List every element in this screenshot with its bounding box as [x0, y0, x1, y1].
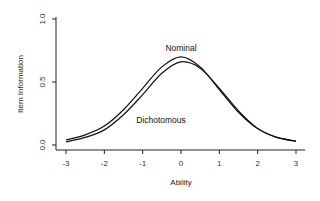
nominal-curve [66, 57, 296, 141]
x-tick-label: 3 [294, 159, 299, 168]
dichotomous-curve [66, 62, 296, 142]
dichotomous-annotation: Dichotomous [136, 115, 186, 125]
x-tick-label: 2 [255, 159, 260, 168]
y-tick-label: 0.5 [38, 76, 47, 88]
axes [56, 17, 305, 150]
nominal-annotation: Nominal [165, 43, 196, 53]
curves [66, 57, 296, 142]
x-ticks: -3-2-10123 [62, 150, 298, 168]
y-tick-label: 1.0 [38, 13, 47, 25]
y-tick-label: 0.0 [38, 139, 47, 151]
x-tick-label: 1 [217, 159, 222, 168]
x-tick-label: 0 [179, 159, 184, 168]
x-tick-label: -3 [62, 159, 70, 168]
x-axis-title: Ability [170, 178, 191, 187]
y-axis-title: Item Information [16, 55, 25, 113]
x-tick-label: -2 [101, 159, 109, 168]
item-information-chart: 0.00.51.0 -3-2-10123 Ability Item Inform… [0, 0, 320, 201]
x-tick-label: -1 [139, 159, 147, 168]
y-ticks: 0.00.51.0 [38, 13, 56, 151]
